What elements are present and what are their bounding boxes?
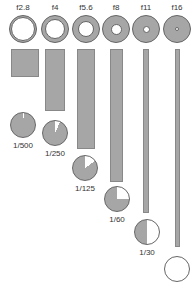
aperture-opening [11, 17, 35, 41]
aperture-label: f4 [40, 3, 70, 12]
aperture-opening [111, 24, 122, 35]
exposure-bar [110, 49, 123, 182]
aperture-label: f5.6 [71, 3, 101, 12]
shutter-label: 1/250 [40, 149, 70, 158]
aperture-opening [143, 26, 150, 33]
aperture-opening [45, 19, 65, 39]
shutter-pie [134, 219, 160, 245]
aperture-ring [163, 15, 191, 43]
aperture-opening [78, 21, 94, 37]
aperture-label: f2.8 [8, 3, 38, 12]
aperture-label: f8 [101, 3, 131, 12]
aperture-opening [175, 27, 179, 31]
shutter-pie [10, 112, 36, 138]
exposure-bar [175, 49, 180, 247]
aperture-ring [72, 15, 100, 43]
shutter-pie [164, 256, 190, 282]
shutter-label: 1/125 [70, 184, 100, 193]
shutter-label: 1/60 [102, 215, 132, 224]
aperture-ring [132, 15, 160, 43]
shutter-label: 1/500 [8, 141, 38, 150]
shutter-pie [72, 155, 98, 181]
aperture-ring [9, 15, 37, 43]
shutter-pie [42, 120, 68, 146]
exposure-bar [11, 49, 39, 77]
aperture-ring [102, 15, 130, 43]
aperture-label: f16 [162, 3, 192, 12]
aperture-ring [41, 15, 69, 43]
aperture-label: f11 [131, 3, 161, 12]
exposure-bar [143, 49, 149, 213]
shutter-label: 1/30 [132, 248, 162, 257]
exposure-bar [77, 49, 95, 149]
shutter-pie [104, 186, 130, 212]
exposure-bar [45, 49, 65, 111]
